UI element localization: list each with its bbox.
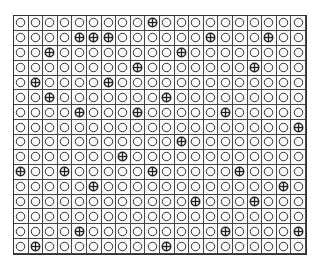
- circle-icon: [278, 226, 289, 237]
- grid-cell: [277, 239, 292, 254]
- grid-cell: [175, 239, 190, 254]
- circle-icon: [44, 226, 55, 237]
- circle-icon: [205, 151, 216, 162]
- grid-cell: [72, 105, 87, 120]
- grid-cell: [204, 150, 219, 165]
- circle-icon: [44, 241, 55, 252]
- circle-icon: [278, 32, 289, 43]
- grid-cell: [29, 180, 44, 195]
- grid-cell: [14, 224, 29, 239]
- grid-cell: [291, 195, 306, 210]
- grid-cell: [189, 46, 204, 61]
- circle-icon: [176, 62, 187, 73]
- circle-icon: [176, 241, 187, 252]
- grid-cell: [291, 31, 306, 46]
- circle-icon: [30, 107, 41, 118]
- circle-icon: [74, 151, 85, 162]
- grid-cell: [43, 180, 58, 195]
- circle-icon: [263, 211, 274, 222]
- grid-cell: [291, 239, 306, 254]
- grid-cell: [116, 224, 131, 239]
- grid-cell: [189, 150, 204, 165]
- grid-cell: [189, 165, 204, 180]
- grid-cell: [189, 135, 204, 150]
- grid-cell: [102, 209, 117, 224]
- grid-cell: [248, 31, 263, 46]
- grid-cell: [58, 16, 73, 31]
- circle-icon: [15, 47, 26, 58]
- circle-icon: [15, 196, 26, 207]
- circle-icon: [293, 17, 304, 28]
- grid-cell: [102, 120, 117, 135]
- grid-cell: [262, 180, 277, 195]
- circle-icon: [220, 181, 231, 192]
- grid-cell: [248, 105, 263, 120]
- circle-icon: [147, 47, 158, 58]
- grid-cell: [87, 120, 102, 135]
- grid-cell: [277, 150, 292, 165]
- circle-icon: [190, 47, 201, 58]
- circle-icon: [103, 151, 114, 162]
- grid-cell: [233, 135, 248, 150]
- circle-icon: [44, 166, 55, 177]
- circle-icon: [161, 107, 172, 118]
- grid-cell: [87, 31, 102, 46]
- grid-cell: [131, 31, 146, 46]
- grid-cell: [58, 120, 73, 135]
- grid-cell: [116, 105, 131, 120]
- grid-cell: [145, 150, 160, 165]
- circle-icon: [190, 151, 201, 162]
- circle-icon: [88, 151, 99, 162]
- grid-cell: [72, 239, 87, 254]
- circle-icon: [132, 241, 143, 252]
- circle-plus-icon: [74, 32, 85, 43]
- circle-icon: [205, 47, 216, 58]
- grid-cell: [233, 16, 248, 31]
- grid-cell: [14, 120, 29, 135]
- circle-icon: [132, 166, 143, 177]
- circle-plus-icon: [220, 107, 231, 118]
- circle-icon: [147, 226, 158, 237]
- circle-icon: [220, 92, 231, 103]
- grid-cell: [218, 135, 233, 150]
- circle-icon: [234, 196, 245, 207]
- grid-cell: [160, 150, 175, 165]
- circle-icon: [117, 211, 128, 222]
- grid-cell: [277, 135, 292, 150]
- circle-plus-icon: [132, 62, 143, 73]
- grid-cell: [262, 209, 277, 224]
- grid-cell: [204, 165, 219, 180]
- grid-cell: [233, 120, 248, 135]
- grid-cell: [277, 61, 292, 76]
- grid-cell: [29, 46, 44, 61]
- circle-icon: [190, 181, 201, 192]
- grid-cell: [72, 150, 87, 165]
- grid-cell: [14, 135, 29, 150]
- grid-cell: [262, 61, 277, 76]
- circle-icon: [59, 122, 70, 133]
- grid-cell: [248, 165, 263, 180]
- grid-cell: [72, 61, 87, 76]
- grid-cell: [218, 239, 233, 254]
- circle-icon: [147, 32, 158, 43]
- grid-cell: [43, 76, 58, 91]
- grid-cell: [14, 31, 29, 46]
- grid-cell: [145, 31, 160, 46]
- grid-cell: [58, 105, 73, 120]
- circle-icon: [293, 196, 304, 207]
- grid-cell: [43, 46, 58, 61]
- circle-icon: [176, 151, 187, 162]
- circle-icon: [161, 32, 172, 43]
- grid-cell: [189, 120, 204, 135]
- grid-cell: [116, 209, 131, 224]
- grid-cell: [160, 76, 175, 91]
- grid-cell: [277, 224, 292, 239]
- grid-cell: [87, 105, 102, 120]
- circle-plus-icon: [190, 196, 201, 207]
- grid-cell: [233, 105, 248, 120]
- circle-icon: [132, 181, 143, 192]
- circle-icon: [220, 17, 231, 28]
- circle-icon: [293, 107, 304, 118]
- grid-cell: [233, 165, 248, 180]
- circle-icon: [220, 166, 231, 177]
